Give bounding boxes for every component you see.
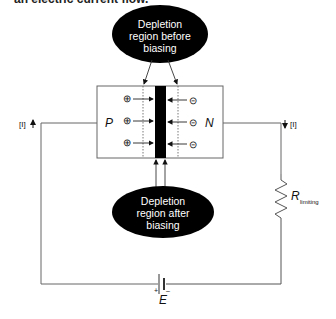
- hole-icon: ⊕: [123, 93, 131, 104]
- top-bubble-line-1: Depletion: [138, 18, 183, 30]
- right-current-label: [I]: [290, 120, 297, 129]
- top-arrow-left: [144, 60, 152, 84]
- top-depletion-bubble: Depletion region before biasing: [112, 5, 208, 63]
- right-wire-top: [223, 123, 281, 174]
- bottom-bubble-line-2: region after: [136, 207, 190, 219]
- battery-icon: [159, 274, 164, 294]
- hole-icon: ⊕: [123, 137, 131, 148]
- top-arrow-right: [168, 60, 177, 84]
- battery-label: E: [159, 293, 168, 307]
- bottom-bubble-line-3: biasing: [146, 219, 179, 231]
- bottom-depletion-bubble: Depletion region after biasing: [112, 186, 214, 238]
- pn-junction-diagram: Depletion region before biasing P N ⊕ ⊕ …: [0, 0, 336, 319]
- depletion-region-bar: [155, 86, 166, 158]
- top-bubble-line-2: region before: [129, 30, 191, 42]
- n-side-carriers: ⊝ ⊝ ⊝: [168, 95, 197, 150]
- electron-icon: ⊝: [189, 139, 197, 150]
- resistor-symbol: R: [291, 189, 300, 203]
- p-side-carriers: ⊕ ⊕ ⊕: [123, 93, 153, 148]
- left-current-label: [I]: [19, 120, 26, 129]
- battery-plus: +: [154, 287, 158, 294]
- electron-icon: ⊝: [189, 117, 197, 128]
- hole-icon: ⊕: [123, 115, 131, 126]
- top-bubble-line-3: biasing: [143, 42, 176, 54]
- resistor-subscript: limiting: [300, 199, 319, 205]
- n-label: N: [205, 116, 214, 130]
- bottom-bubble-line-1: Depletion: [141, 195, 186, 207]
- p-label: P: [105, 116, 113, 130]
- electron-icon: ⊝: [189, 95, 197, 106]
